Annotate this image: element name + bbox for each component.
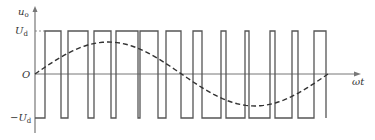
spwm-diagram: uo Ud O −Ud ωt [0,0,375,140]
pos-level-label: Ud [15,25,28,38]
neg-level-label: −Ud [10,112,32,125]
axes [33,6,362,133]
y-axis-label: uo [18,6,29,19]
y-axis-arrow-icon [33,6,38,12]
axis-labels: uo Ud O −Ud ωt [10,6,365,125]
x-axis-label: ωt [352,76,365,87]
origin-label: O [22,69,30,80]
